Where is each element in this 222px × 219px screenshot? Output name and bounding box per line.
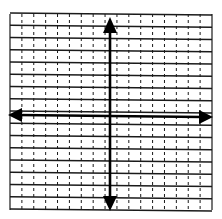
coordinate-plane (0, 0, 222, 219)
y-axis-up-arrow-icon (103, 17, 117, 33)
horizontal-grid-line (10, 13, 212, 15)
horizontal-grid-line (10, 209, 212, 211)
x-axis-right-arrow-icon (199, 110, 213, 124)
